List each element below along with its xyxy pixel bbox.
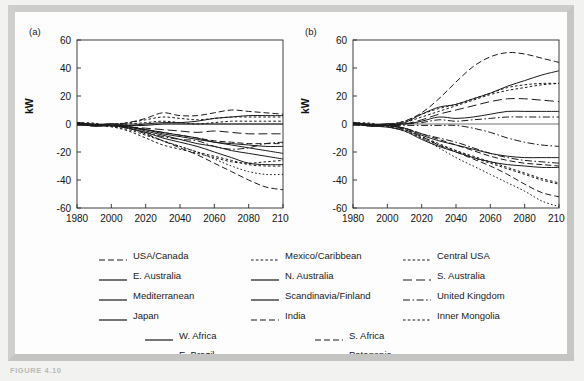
legend-swatch-dotted-fine [403,315,431,325]
legend-swatch-dashed [251,315,279,325]
x-tick-label: 2020 [135,213,158,224]
legend-grid: USA/CanadaMexico/CaribbeanCentral USAE. … [99,246,545,326]
y-tick-label: -20 [333,147,348,158]
legend-swatch-dotted-fine [145,354,173,355]
figure-page: (a) kW 6040200-20-40-6019802000202020402… [0,0,584,381]
legend-swatch-dotted [315,354,343,355]
legend-item-e-brazil[interactable]: E. Brazil [145,345,315,355]
panel-b: (b) kW 6040200-20-40-6019802000202020402… [297,18,565,240]
panel-a: (a) kW 6040200-20-40-6019802000202020402… [21,18,289,240]
legend-swatch-dashed-long [403,275,431,285]
legend-item-india[interactable]: India [251,306,403,326]
y-tick-label: -40 [57,175,72,186]
y-tick-label: -60 [57,203,72,214]
y-tick-label: 60 [336,35,348,46]
figure-frame: (a) kW 6040200-20-40-6019802000202020402… [8,5,574,361]
legend-line-icon [403,271,431,281]
y-tick-label: 40 [60,63,72,74]
x-tick-label: 2020 [411,213,434,224]
legend-item-central-usa[interactable]: Central USA [403,246,545,266]
y-tick-label: -40 [333,175,348,186]
x-tick-label: 2100 [272,213,289,224]
legend-swatch-dotted-fine [251,255,279,265]
legend-item-s-australia[interactable]: S. Australia [403,266,545,286]
legend-swatch-solid [145,335,173,345]
legend-bottom-rows: W. AfricaS. AfricaE. BrazilPatagonia [145,326,485,354]
legend-item-united-kingdom[interactable]: United Kingdom [403,286,545,306]
legend-item-scandinavia-finland[interactable]: Scandinavia/Finland [251,286,403,306]
legend-line-icon [145,350,173,355]
legend-swatch-solid [99,315,127,325]
figure-caption-text: FIGURE 4.10 [10,366,240,375]
legend-swatch-dotted-fine [403,255,431,265]
chart-legend: USA/CanadaMexico/CaribbeanCentral USAE. … [21,244,565,354]
panel-a-plot: 6040200-20-40-60198020002020204020602080… [21,18,289,240]
legend-item-w-africa[interactable]: W. Africa [145,326,315,346]
legend-swatch-dashed [99,255,127,265]
legend-line-icon [99,311,127,321]
legend-swatch-dash-dot [403,295,431,305]
legend-item-label: Japan [133,311,159,321]
legend-swatch-solid [251,295,279,305]
x-tick-label: 2060 [479,213,502,224]
x-tick-label: 2000 [100,213,123,224]
legend-line-icon [99,291,127,301]
x-tick-label: 2040 [169,213,192,224]
legend-item-label: E. Australia [133,271,181,281]
legend-line-icon [403,291,431,301]
legend-item-e-australia[interactable]: E. Australia [99,266,251,286]
legend-row: E. AustraliaN. AustraliaS. Australia [99,266,545,286]
y-tick-label: 20 [336,91,348,102]
legend-row: USA/CanadaMexico/CaribbeanCentral USA [99,246,545,266]
legend-item-label: Scandinavia/Finland [285,291,371,301]
legend-swatch-solid [99,295,127,305]
legend-line-icon [99,271,127,281]
figure-caption: FIGURE 4.10 [10,366,240,380]
legend-item-label: N. Australia [285,271,334,281]
legend-line-icon [251,271,279,281]
legend-item-inner-mongolia[interactable]: Inner Mongolia [403,306,545,326]
legend-item-label: E. Brazil [179,350,214,354]
legend-row: E. BrazilPatagonia [145,345,485,354]
legend-swatch-dashed [315,335,343,345]
legend-item-mexico-caribbean[interactable]: Mexico/Caribbean [251,246,403,266]
y-tick-label: 40 [336,63,348,74]
y-tick-label: -60 [333,203,348,214]
legend-row: JapanIndiaInner Mongolia [99,306,545,326]
y-tick-label: 20 [60,91,72,102]
y-tick-label: 0 [65,119,71,130]
x-tick-label: 2000 [376,213,399,224]
x-tick-label: 2100 [548,213,565,224]
legend-item-mediterranean[interactable]: Mediterranean [99,286,251,306]
legend-item-label: Inner Mongolia [437,311,500,321]
x-tick-label: 2060 [203,213,226,224]
legend-item-usa-canada[interactable]: USA/Canada [99,246,251,266]
legend-item-label: S. Australia [437,271,485,281]
legend-line-icon [251,251,279,261]
legend-item-label: Mediterranean [133,291,194,301]
legend-item-label: United Kingdom [437,291,505,301]
x-tick-label: 1980 [342,213,365,224]
legend-line-icon [315,331,343,341]
legend-line-icon [251,311,279,321]
legend-line-icon [99,251,127,261]
legend-item-japan[interactable]: Japan [99,306,251,326]
legend-item-n-australia[interactable]: N. Australia [251,266,403,286]
legend-line-icon [145,331,173,341]
y-tick-label: 60 [60,35,72,46]
figure-inner: (a) kW 6040200-20-40-6019802000202020402… [15,12,567,354]
x-tick-label: 2040 [445,213,468,224]
legend-swatch-solid [99,275,127,285]
legend-item-label: Central USA [437,251,490,261]
x-tick-label: 2080 [238,213,261,224]
legend-line-icon [315,350,343,355]
legend-line-icon [251,291,279,301]
y-tick-label: -20 [57,147,72,158]
legend-item-label: USA/Canada [133,251,188,261]
legend-item-patagonia[interactable]: Patagonia [315,345,485,355]
x-tick-label: 2080 [514,213,537,224]
legend-item-s-africa[interactable]: S. Africa [315,326,485,346]
legend-item-label: India [285,311,306,321]
legend-row: W. AfricaS. Africa [145,326,485,345]
x-tick-label: 1980 [66,213,89,224]
